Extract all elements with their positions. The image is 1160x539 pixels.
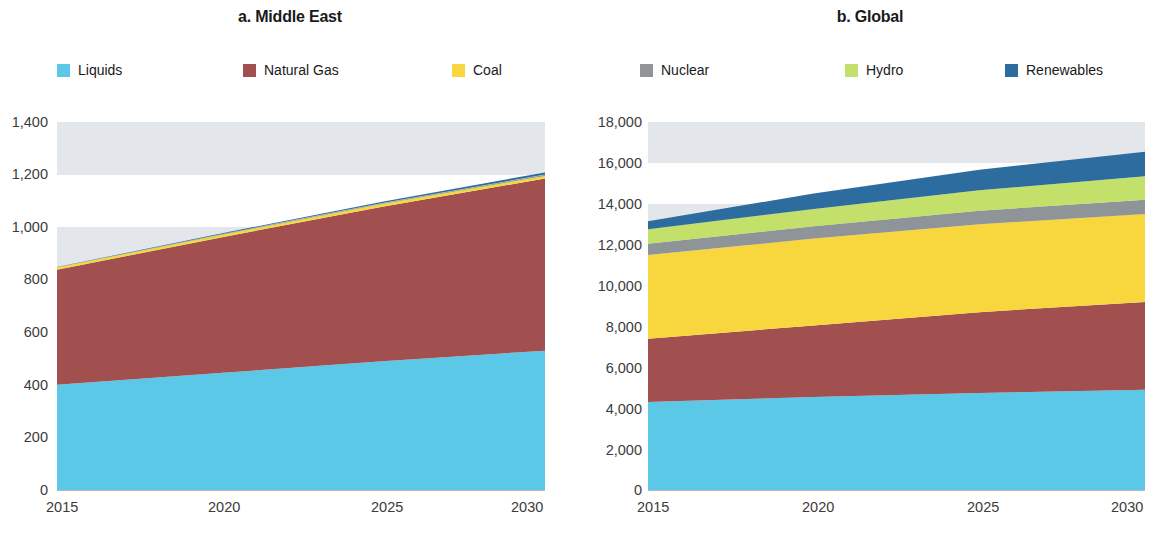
- y-tick-label: 8,000: [580, 319, 642, 335]
- y-tick-label: 200: [0, 429, 48, 445]
- y-tick-label: 12,000: [580, 237, 642, 253]
- y-tick-label: 1,400: [0, 114, 48, 130]
- legend-label-hydro: Hydro: [866, 62, 903, 78]
- legend-swatch-natural-gas: [243, 64, 256, 77]
- y-tick-label: 0: [580, 482, 642, 498]
- x-tick-label: 2020: [802, 499, 834, 515]
- legend-label-renewables: Renewables: [1026, 62, 1103, 78]
- legend-swatch-liquids: [57, 64, 70, 77]
- legend-item-nuclear[interactable]: Nuclear: [640, 62, 709, 78]
- legend-swatch-hydro: [845, 64, 858, 77]
- plot-area-global: [648, 122, 1145, 490]
- x-tick-label: 2030: [511, 499, 543, 515]
- x-tick-label: 2020: [208, 499, 240, 515]
- stacked-area-middle-east: [57, 122, 545, 490]
- area-series-natural-gas: [57, 179, 545, 385]
- figure-root: a. Middle East Liquids Natural Gas Coal …: [0, 0, 1160, 539]
- panel-middle-east: a. Middle East Liquids Natural Gas Coal …: [0, 0, 580, 539]
- legend-item-coal[interactable]: Coal: [452, 62, 502, 78]
- x-tick-label: 2025: [967, 499, 999, 515]
- panel-global: b. Global Nuclear Hydro Renewables 18,00…: [580, 0, 1160, 539]
- y-tick-label: 14,000: [580, 196, 642, 212]
- legend-swatch-renewables: [1005, 64, 1018, 77]
- x-axis-line: [57, 490, 545, 491]
- stacked-area-global: [648, 122, 1145, 490]
- x-tick-label: 2015: [637, 499, 669, 515]
- legend-item-liquids[interactable]: Liquids: [57, 62, 122, 78]
- plot-area-middle-east: [57, 122, 545, 490]
- y-tick-label: 18,000: [580, 114, 642, 130]
- legend-global: Nuclear Hydro Renewables: [580, 62, 1160, 92]
- x-tick-label: 2025: [371, 499, 403, 515]
- y-tick-label: 600: [0, 324, 48, 340]
- y-tick-label: 2,000: [580, 442, 642, 458]
- y-tick-label: 4,000: [580, 401, 642, 417]
- area-series-liquids: [648, 390, 1145, 490]
- y-tick-label: 6,000: [580, 360, 642, 376]
- legend-item-natural-gas[interactable]: Natural Gas: [243, 62, 339, 78]
- y-tick-label: 1,200: [0, 166, 48, 182]
- legend-label-nuclear: Nuclear: [661, 62, 709, 78]
- panel-title-middle-east: a. Middle East: [0, 8, 580, 26]
- y-tick-label: 400: [0, 377, 48, 393]
- legend-label-natural-gas: Natural Gas: [264, 62, 339, 78]
- legend-middle-east: Liquids Natural Gas Coal: [0, 62, 580, 92]
- legend-swatch-coal: [452, 64, 465, 77]
- y-tick-label: 800: [0, 271, 48, 287]
- panel-title-global: b. Global: [580, 8, 1160, 26]
- x-tick-label: 2015: [46, 499, 78, 515]
- legend-label-liquids: Liquids: [78, 62, 122, 78]
- x-axis-line: [648, 490, 1145, 491]
- y-tick-label: 1,000: [0, 219, 48, 235]
- y-tick-label: 16,000: [580, 155, 642, 171]
- legend-label-coal: Coal: [473, 62, 502, 78]
- legend-item-renewables[interactable]: Renewables: [1005, 62, 1103, 78]
- y-tick-label: 0: [0, 482, 48, 498]
- legend-swatch-nuclear: [640, 64, 653, 77]
- x-tick-label: 2030: [1111, 499, 1143, 515]
- legend-item-hydro[interactable]: Hydro: [845, 62, 903, 78]
- y-tick-label: 10,000: [580, 278, 642, 294]
